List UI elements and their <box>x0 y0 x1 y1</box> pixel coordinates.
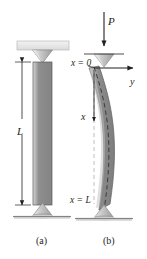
load-label-P: P <box>108 16 115 27</box>
top-support-plate-a <box>17 41 69 50</box>
column-straight-a <box>33 62 52 205</box>
dimension-label-L: L <box>17 126 23 137</box>
end-label-x-equals-L: x = L <box>70 196 91 206</box>
caption-panel-a: (a) <box>36 236 47 246</box>
figure-container: P L x = 0 x = L y x (a) (b) <box>0 0 147 259</box>
origin-label-x-equals-0: x = 0 <box>71 59 91 69</box>
caption-panel-b: (b) <box>103 236 115 246</box>
column-buckled-b <box>89 66 114 210</box>
top-pin-support-b <box>94 54 114 67</box>
axis-label-x: x <box>81 112 85 122</box>
axis-label-y: y <box>130 77 134 87</box>
ground-line-b <box>75 218 133 221</box>
ground-line-a <box>13 216 71 219</box>
top-pin-support-a <box>33 50 53 63</box>
